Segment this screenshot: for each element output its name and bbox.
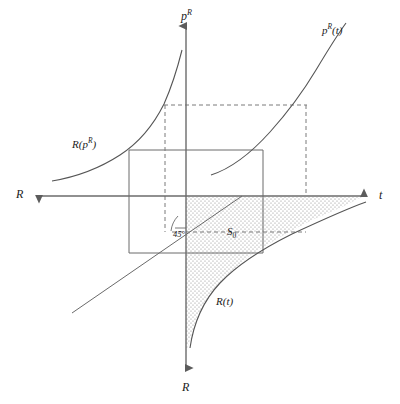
shaded-area-s0 (186, 197, 362, 352)
axis-label-horizontal-left: R (16, 188, 23, 200)
curve-pR-of-t (211, 23, 346, 175)
curve-label-R-of-t: R(t) (216, 296, 233, 307)
diagram-root: pR R R t pR(t) R(pR) R(t) 45° S0 (0, 0, 400, 404)
axis-label-vertical-up: pR (181, 10, 192, 22)
axis-label-horizontal-right: t (379, 189, 382, 201)
curve-label-R-of-pR: R(pR) (72, 139, 96, 150)
axis-label-vertical-down: R (182, 381, 189, 393)
diagram-canvas (0, 0, 400, 404)
curve-R-of-pR (52, 50, 182, 181)
angle-label-45: 45° (173, 230, 185, 239)
area-label-s0: S0 (227, 226, 236, 237)
curve-label-pR-of-t: pR(t) (322, 25, 342, 36)
